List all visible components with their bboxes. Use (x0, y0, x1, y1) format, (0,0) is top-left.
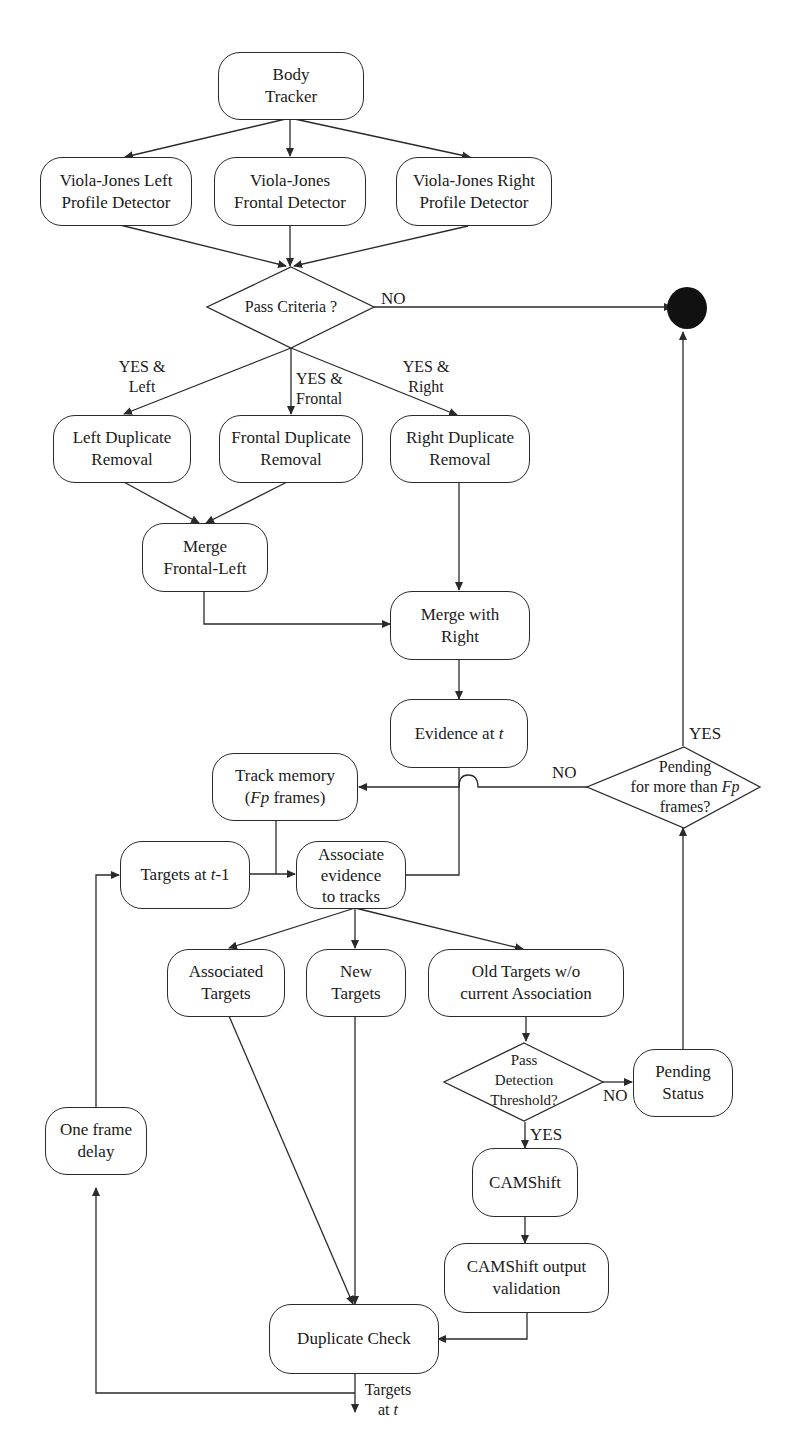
node-label: delay (78, 1141, 115, 1163)
node-old-targets: Old Targets w/o current Association (428, 949, 624, 1017)
node-label: Targets at t-1 (140, 864, 229, 886)
node-label: Duplicate Check (297, 1328, 411, 1350)
node-label: Associated (189, 961, 264, 983)
node-track-memory: Track memory (Fp frames) (212, 753, 358, 821)
node-label: Right (441, 626, 479, 648)
node-label: Tracker (265, 86, 317, 108)
node-body-tracker: Body Tracker (218, 52, 364, 120)
node-camshift-validation: CAMShift output validation (444, 1243, 609, 1313)
node-evidence-at-t: Evidence at t (390, 699, 528, 768)
node-pending-status: Pending Status (633, 1049, 733, 1117)
node-label: Old Targets w/o (472, 961, 581, 983)
node-duplicate-check: Duplicate Check (269, 1304, 439, 1374)
pass-criteria-label: Pass Criteria ? (230, 297, 352, 317)
node-frontal-duplicate-removal: Frontal Duplicate Removal (219, 415, 363, 483)
edge-label-pending-no: NO (552, 763, 577, 783)
node-label: to tracks (322, 886, 380, 907)
edge-label-detection-no: NO (603, 1086, 628, 1106)
node-left-duplicate-removal: Left Duplicate Removal (53, 415, 191, 483)
edge-label-output-targets: Targets at t (358, 1380, 418, 1420)
node-label: Frontal-Left (163, 558, 246, 580)
node-new-targets: New Targets (306, 949, 406, 1017)
node-associated-targets: Associated Targets (167, 949, 285, 1017)
node-label: Pending (655, 1061, 711, 1083)
node-right-duplicate-removal: Right Duplicate Removal (390, 415, 530, 483)
node-label: Track memory (235, 765, 335, 787)
node-label: Profile Detector (419, 192, 528, 214)
node-one-frame-delay: One frame delay (45, 1107, 147, 1175)
node-label: current Association (460, 983, 592, 1005)
node-targets-at-t-minus-1: Targets at t-1 (120, 841, 250, 909)
node-label: Removal (91, 449, 152, 471)
pending-frames-label: Pending for more than Fp frames? (610, 757, 760, 817)
node-label: Viola-Jones Right (413, 170, 535, 192)
node-label: (Fp frames) (245, 787, 326, 809)
node-label: Targets (201, 983, 250, 1005)
node-label: One frame (60, 1119, 132, 1141)
node-label: Merge (183, 536, 227, 558)
edge-label-detection-yes: YES (530, 1125, 562, 1145)
node-camshift: CAMShift (472, 1148, 578, 1217)
edge-label-pending-yes: YES (689, 724, 721, 744)
node-label: evidence (321, 865, 381, 886)
node-label: Removal (260, 449, 321, 471)
node-label: CAMShift (489, 1172, 561, 1194)
pass-detection-label: Pass Detection Threshold? (474, 1050, 574, 1110)
node-label: Right Duplicate (406, 427, 514, 449)
node-label: Evidence at t (415, 723, 504, 745)
node-label: Targets (331, 983, 380, 1005)
face-tracking-flowchart: Body Tracker Viola-Jones Left Profile De… (0, 0, 810, 1453)
edge-label-no-criteria: NO (381, 289, 406, 309)
node-label: Status (662, 1083, 704, 1105)
node-label: Left Duplicate (73, 427, 172, 449)
node-viola-jones-left: Viola-Jones Left Profile Detector (40, 157, 192, 226)
node-label: validation (493, 1278, 561, 1300)
node-label: Body (273, 64, 310, 86)
node-label: Frontal Duplicate (231, 427, 350, 449)
node-label: Viola-Jones Left (60, 170, 173, 192)
node-merge-with-right: Merge with Right (390, 591, 530, 660)
node-label: New (340, 961, 372, 983)
node-merge-frontal-left: Merge Frontal-Left (142, 523, 268, 592)
edge-label-yes-right: YES & Right (396, 357, 456, 397)
node-viola-jones-frontal: Viola-Jones Frontal Detector (214, 157, 366, 226)
node-associate-evidence: Associate evidence to tracks (296, 841, 406, 909)
edge-label-yes-left: YES & Left (112, 357, 172, 397)
node-viola-jones-right: Viola-Jones Right Profile Detector (396, 157, 552, 226)
node-label: Removal (429, 449, 490, 471)
node-label: Merge with (421, 604, 500, 626)
node-label: Profile Detector (61, 192, 170, 214)
end-terminal-node (667, 287, 707, 329)
edge-label-yes-frontal: YES & Frontal (296, 369, 343, 409)
node-label: Frontal Detector (234, 192, 346, 214)
node-label: Associate (318, 844, 384, 865)
node-label: Viola-Jones (250, 170, 330, 192)
node-label: CAMShift output (467, 1256, 587, 1278)
